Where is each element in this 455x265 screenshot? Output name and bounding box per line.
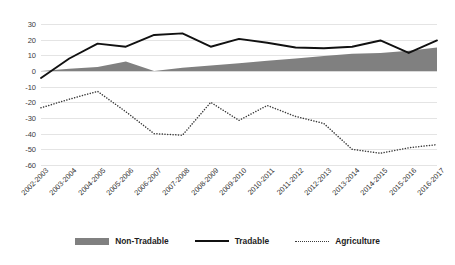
legend-item-non-tradable[interactable]: Non-Tradable: [75, 236, 169, 246]
y-tick-label: -30: [25, 114, 36, 123]
chart-legend: Non-TradableTradableAgriculture: [0, 236, 455, 246]
chart-title: [0, 0, 455, 4]
y-tick-label: -60: [25, 161, 36, 170]
y-tick-label: 0: [32, 67, 36, 76]
legend-item-label: Agriculture: [335, 236, 380, 246]
legend-area-swatch-icon: [75, 238, 109, 245]
legend-item-label: Tradable: [235, 236, 269, 246]
series-area-non-tradable: [41, 48, 437, 72]
legend-item-label: Non-Tradable: [115, 236, 169, 246]
series-layer: [41, 24, 437, 165]
x-axis: 2002-20032003-20042004-20052005-20062006…: [41, 166, 437, 214]
legend-item-tradable[interactable]: Tradable: [195, 236, 269, 246]
legend-dotted-line-swatch-icon: [295, 241, 329, 242]
plot-area: [41, 24, 437, 165]
y-axis: 3020100-10-20-30-40-50-60: [0, 24, 36, 165]
y-tick-label: 10: [28, 51, 36, 60]
series-line-agriculture: [41, 91, 437, 153]
legend-solid-line-swatch-icon: [195, 240, 229, 242]
y-tick-label: 20: [28, 35, 36, 44]
y-tick-label: -20: [25, 98, 36, 107]
legend-item-agriculture[interactable]: Agriculture: [295, 236, 380, 246]
y-tick-label: -40: [25, 129, 36, 138]
y-tick-label: -50: [25, 145, 36, 154]
chart-container: 3020100-10-20-30-40-50-60 2002-20032003-…: [0, 0, 455, 265]
y-tick-label: -10: [25, 82, 36, 91]
y-tick-label: 30: [28, 20, 36, 29]
